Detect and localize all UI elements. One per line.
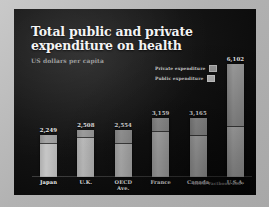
bar-segment-public-canada — [190, 136, 207, 177]
chart-plot-area: 2,249 2,508 2,554 — [36, 49, 248, 177]
bar-segment-private-oecd-ave — [115, 130, 132, 144]
bar-segment-private-canada — [190, 118, 207, 136]
bar-france — [152, 118, 169, 177]
bar-column-oecd-ave: 2,554 — [111, 49, 136, 177]
bar-segment-public-uk — [77, 138, 94, 177]
bar-segment-public-oecd-ave — [115, 144, 132, 178]
x-label-oecd-ave: OECD Ave. — [111, 179, 136, 191]
bar-segment-private-france — [152, 118, 169, 132]
x-label-france: France — [148, 179, 173, 191]
bar-oecd-ave — [115, 130, 132, 177]
bar-column-canada: 3,165 — [186, 49, 211, 177]
x-label-japan: Japan — [36, 179, 61, 191]
x-axis-line — [32, 176, 252, 177]
source-note: OECD Factbook 2007 — [192, 181, 244, 186]
bar-uk — [77, 130, 94, 177]
bar-canada — [190, 118, 207, 177]
bar-value-usa: 6,102 — [227, 56, 244, 62]
bar-column-usa: 6,102 — [223, 49, 248, 177]
bar-usa — [227, 64, 244, 177]
presentation-slide: Total public and private expenditure on … — [14, 9, 256, 195]
bar-column-france: 3,159 — [148, 49, 173, 177]
page-title: Total public and private expenditure on … — [31, 25, 196, 52]
bar-segment-private-japan — [40, 135, 57, 144]
bar-series-group: 2,249 2,508 2,554 — [36, 49, 248, 177]
bar-segment-public-usa — [227, 127, 244, 177]
bar-value-uk: 2,508 — [77, 122, 94, 128]
x-label-uk: U.K. — [73, 179, 98, 191]
bar-segment-public-japan — [40, 144, 57, 177]
bar-segment-private-usa — [227, 64, 244, 127]
bar-segment-public-france — [152, 132, 169, 177]
bar-column-uk: 2,508 — [73, 49, 98, 177]
bar-segment-private-uk — [77, 130, 94, 138]
bar-value-france: 3,159 — [152, 110, 169, 116]
bar-japan — [40, 135, 57, 177]
bar-value-japan: 2,249 — [40, 127, 57, 133]
bar-value-canada: 3,165 — [189, 110, 206, 116]
bar-value-oecd-ave: 2,554 — [115, 122, 132, 128]
slide-frame: Total public and private expenditure on … — [0, 0, 269, 207]
bar-column-japan: 2,249 — [36, 49, 61, 177]
